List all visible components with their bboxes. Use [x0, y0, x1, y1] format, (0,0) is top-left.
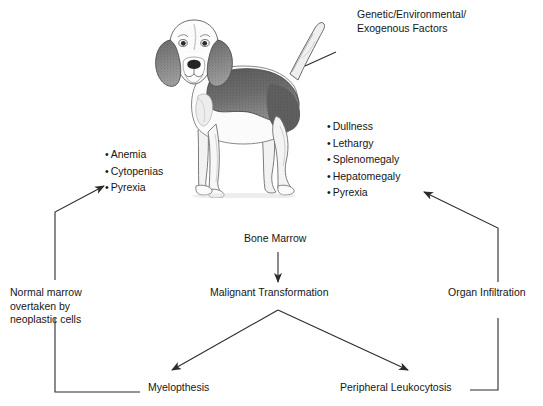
sign-hepatomegaly: Hepatomegaly [327, 168, 400, 185]
node-bone-marrow: Bone Marrow [244, 232, 306, 245]
diagram-canvas: Genetic/Environmental/ Exogenous Factors… [0, 0, 543, 406]
bone-marrow-signs-list: Anemia Cytopenias Pyrexia [105, 146, 163, 196]
sign-anemia: Anemia [105, 146, 163, 163]
edge-malignant-to-myelopthesis [172, 310, 278, 370]
sign-lethargy: Lethargy [327, 135, 400, 152]
sign-cytopenias: Cytopenias [105, 163, 163, 180]
node-peripheral-leukocytosis: Peripheral Leukocytosis [340, 381, 451, 394]
node-normal-marrow-line3: neoplastic cells [10, 313, 82, 327]
factors-label: Genetic/Environmental/ Exogenous Factors [357, 8, 466, 35]
edge-malignant-to-leukocytosis [278, 310, 408, 370]
factors-label-line1: Genetic/Environmental/ Exogenous Factors [357, 8, 466, 35]
sign-pyrexia-right: Pyrexia [327, 184, 400, 201]
node-malignant-transformation: Malignant Transformation [210, 286, 328, 299]
node-normal-marrow: Normal marrow overtaken by neoplastic ce… [10, 286, 82, 327]
organ-infiltration-signs-list: Dullness Lethargy Splenomegaly Hepatomeg… [327, 118, 400, 201]
sign-splenomegaly: Splenomegaly [327, 151, 400, 168]
edge-organ-to-signs [424, 192, 498, 282]
node-normal-marrow-line1: Normal marrow [10, 286, 82, 300]
edge-normal-marrow-to-signs [55, 186, 104, 280]
node-normal-marrow-line2: overtaken by [10, 300, 82, 314]
beagle-dog-illustration [152, 14, 330, 198]
edge-normal-marrow-to-myelopthesis [55, 318, 140, 392]
sign-dullness: Dullness [327, 118, 400, 135]
node-organ-infiltration: Organ Infiltration [448, 286, 526, 299]
edge-leukocytosis-to-organ [470, 318, 498, 390]
sign-pyrexia: Pyrexia [105, 179, 163, 196]
node-myelopthesis: Myelopthesis [148, 381, 209, 394]
